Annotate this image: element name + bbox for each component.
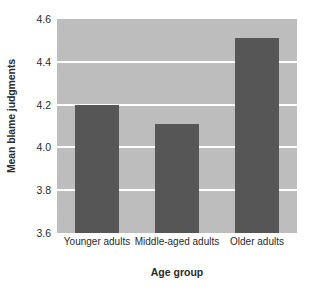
y-axis-tick-label: 3.8 (36, 184, 51, 196)
y-axis-tick-label: 4.4 (36, 56, 51, 68)
bar (75, 105, 119, 233)
y-axis-tick-label: 4.6 (36, 13, 51, 25)
bar (155, 124, 199, 233)
x-axis-tick-labels: Younger adultsMiddle-aged adultsOlder ad… (57, 236, 297, 254)
y-axis-title-text: Mean blame judgments (5, 59, 17, 173)
x-axis-tick-label: Middle-aged adults (135, 236, 220, 247)
x-axis-tick-label: Older adults (230, 236, 284, 247)
x-axis-tick-label: Younger adults (64, 236, 130, 247)
bar-chart-figure: Mean blame judgments 3.63.84.04.24.44.6 … (0, 0, 316, 295)
x-axis-title: Age group (57, 266, 297, 278)
bar (235, 38, 279, 233)
y-axis-tick-label: 4.0 (36, 141, 51, 153)
y-axis-tick-label: 3.6 (36, 227, 51, 239)
y-axis-tick-label: 4.2 (36, 99, 51, 111)
plot-area (57, 19, 297, 233)
y-axis-tick-labels: 3.63.84.04.24.44.6 (22, 19, 55, 233)
y-axis-title: Mean blame judgments (0, 0, 22, 232)
